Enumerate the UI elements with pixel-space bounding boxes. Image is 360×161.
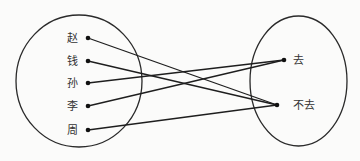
mapping-line-2 — [88, 60, 284, 83]
domain-label-4: 周 — [67, 124, 78, 137]
domain-dot-1 — [86, 59, 91, 64]
codomain-set-ellipse — [250, 16, 347, 146]
domain-dot-4 — [86, 128, 91, 133]
domain-dot-3 — [86, 104, 91, 109]
domain-label-0: 赵 — [67, 31, 78, 45]
domain-dot-2 — [86, 81, 91, 86]
mapping-line-4 — [88, 105, 277, 130]
domain-set-ellipse — [16, 15, 142, 147]
mapping-line-3 — [88, 60, 284, 106]
codomain-label-1: 不去 — [293, 99, 315, 112]
domain-label-1: 钱 — [67, 54, 78, 68]
codomain-dot-0 — [282, 58, 287, 63]
element-labels: 赵钱孙李周去不去 — [67, 31, 315, 137]
codomain-label-0: 去 — [293, 54, 304, 67]
domain-dot-0 — [86, 36, 91, 41]
mapping-diagram: 赵钱孙李周去不去 — [0, 0, 360, 161]
codomain-dot-1 — [275, 103, 280, 108]
mapping-line-1 — [88, 61, 277, 105]
domain-label-2: 孙 — [67, 77, 78, 90]
domain-label-3: 李 — [67, 99, 78, 113]
